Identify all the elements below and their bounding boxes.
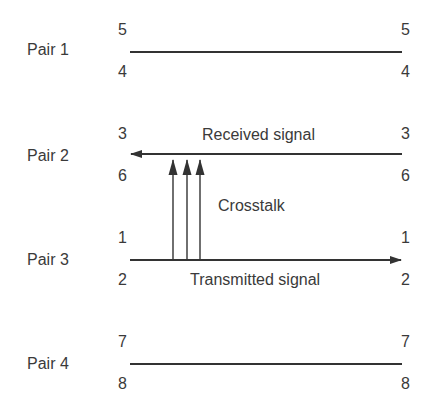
pair-3-left-bottom-pin: 2 [118, 272, 127, 288]
pair-3-label: Pair 3 [27, 252, 69, 268]
received-signal-label: Received signal [202, 127, 315, 143]
pair-3-right-top-pin: 1 [401, 230, 410, 246]
pair-1-right-top-pin: 5 [401, 22, 410, 38]
pair-4-right-bottom-pin: 8 [401, 376, 410, 392]
pair-1-left-top-pin: 5 [118, 22, 127, 38]
pair-1-left-bottom-pin: 4 [118, 64, 127, 80]
pair-4-label: Pair 4 [27, 356, 69, 372]
pair-2-left-top-pin: 3 [118, 126, 127, 142]
pair-2-right-top-pin: 3 [401, 126, 410, 142]
crosstalk-label: Crosstalk [218, 198, 285, 214]
pair-2-left-bottom-pin: 6 [118, 168, 127, 184]
pair-3-left-top-pin: 1 [118, 230, 127, 246]
crosstalk-arrows [169, 159, 205, 259]
pair-1-right-bottom-pin: 4 [401, 64, 410, 80]
transmitted-signal-label: Transmitted signal [190, 272, 320, 288]
pair-2-right-bottom-pin: 6 [401, 168, 410, 184]
pair-2-label: Pair 2 [27, 148, 69, 164]
pair-3-right-bottom-pin: 2 [401, 272, 410, 288]
wiring-diagram [0, 0, 432, 412]
pair-4-left-bottom-pin: 8 [118, 376, 127, 392]
pair-1-label: Pair 1 [27, 42, 69, 58]
pair-4-left-top-pin: 7 [118, 334, 127, 350]
pair-4-right-top-pin: 7 [401, 334, 410, 350]
